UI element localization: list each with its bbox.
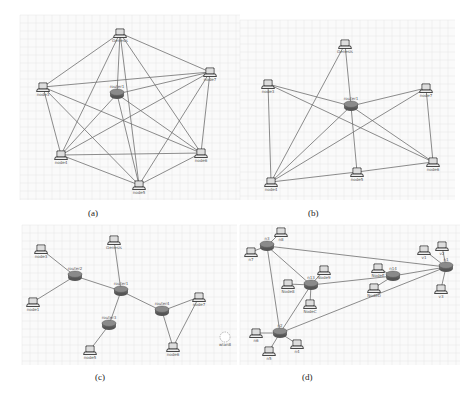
node-label: n13 xyxy=(307,275,315,280)
node-router3[interactable]: router3 xyxy=(102,315,117,330)
node-label: router1 xyxy=(344,96,359,101)
network-topology-figure: Genesisnode7node3router1node6node4node5G… xyxy=(0,0,474,401)
router-icon xyxy=(260,241,274,251)
node-label: router1 xyxy=(114,281,129,286)
node-label: NodeE xyxy=(372,273,385,278)
node-label: router3 xyxy=(102,315,117,320)
node-router1[interactable]: router1 xyxy=(114,281,129,296)
node-label: n2 xyxy=(277,323,283,328)
router-icon xyxy=(386,271,400,281)
node-label: node3 xyxy=(37,92,50,97)
router-icon xyxy=(344,101,358,111)
node-label: node6 xyxy=(167,352,180,357)
node-label: n4 xyxy=(294,349,300,354)
node-label: wlan8 xyxy=(219,342,231,347)
node-label: v1 xyxy=(422,255,427,260)
node-label: node4 xyxy=(265,187,278,192)
panel-c: Genesisnode3router2router1node1node7rout… xyxy=(22,225,237,365)
node-label: Node8 xyxy=(282,289,295,294)
node-label: router1 xyxy=(110,84,125,89)
node-label: node5 xyxy=(351,177,364,182)
caption-a: (a) xyxy=(88,208,98,218)
node-label: router2 xyxy=(68,266,83,271)
node-label: node5 xyxy=(84,355,97,360)
caption-c: (c) xyxy=(95,372,105,382)
cloud-icon xyxy=(220,332,230,342)
node-label: n3 xyxy=(264,236,270,241)
node-label: node7 xyxy=(420,93,433,98)
router-icon xyxy=(304,280,318,290)
router-icon xyxy=(155,306,169,316)
panel-b: Genesisnode3node7router1node6node5node4 xyxy=(240,20,455,200)
node-label: node7 xyxy=(193,302,206,307)
panel-a: Genesisnode7node3router1node6node4node5 xyxy=(20,15,240,200)
node-label: node6 xyxy=(427,167,440,172)
node-label: n5 xyxy=(266,356,272,361)
node-label: Genesis xyxy=(112,38,128,43)
node-label: n6 xyxy=(253,338,259,343)
node-label: v3 xyxy=(439,294,444,299)
node-label: n1 xyxy=(443,257,449,262)
caption-b: (b) xyxy=(308,208,319,218)
node-label: n8 xyxy=(278,237,284,242)
node-label: node7 xyxy=(204,77,217,82)
node-label: n14 xyxy=(389,266,397,271)
node-router1[interactable]: router1 xyxy=(110,84,125,99)
router-icon xyxy=(110,89,124,99)
node-label: node1 xyxy=(27,307,40,312)
router-icon xyxy=(439,262,453,272)
node-label: node5 xyxy=(133,190,146,195)
node-label: Genesis xyxy=(337,49,353,54)
node-label: router4 xyxy=(155,301,170,306)
node-label: node3 xyxy=(35,254,48,259)
router-icon xyxy=(273,328,287,338)
caption-d: (d) xyxy=(302,372,313,382)
node-label: NodeD xyxy=(367,293,381,298)
node-router4[interactable]: router4 xyxy=(155,301,170,316)
node-label: Node9 xyxy=(318,275,331,280)
node-label: node3 xyxy=(262,89,275,94)
router-icon xyxy=(114,286,128,296)
node-label: n7 xyxy=(248,257,254,262)
router-icon xyxy=(68,271,82,281)
node-label: Genesis xyxy=(106,245,122,250)
panel-d: n3n8n7n13Node9Node8NodeCn14NodeENodeDn1v… xyxy=(240,225,460,365)
router-icon xyxy=(102,320,116,330)
node-label: node4 xyxy=(55,160,68,165)
node-label: node6 xyxy=(195,158,208,163)
node-router2[interactable]: router2 xyxy=(68,266,83,281)
canvas-background xyxy=(20,15,240,200)
node-wlan8[interactable]: wlan8 xyxy=(219,332,231,347)
node-label: NodeC xyxy=(303,309,316,314)
node-label: v2 xyxy=(440,251,445,256)
node-router1[interactable]: router1 xyxy=(344,96,359,111)
